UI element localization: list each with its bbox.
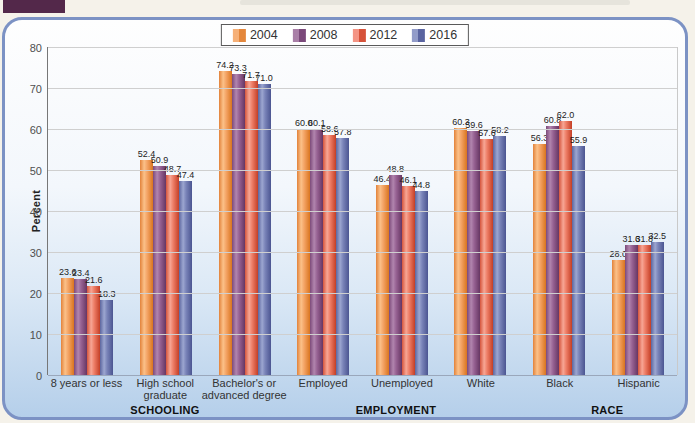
bar-2012: 62.0: [559, 121, 572, 375]
bar-2016: 58.2: [493, 136, 506, 375]
category-labels: 8 years or lessHigh schoolgraduateBachel…: [47, 377, 678, 403]
bar-2004: 28.0: [612, 260, 625, 375]
bar-2008: 60.8: [546, 126, 559, 375]
x-axis-line: [48, 375, 677, 376]
legend-label: 2004: [250, 28, 278, 42]
gridline-50: [48, 170, 677, 171]
bar-2012: 57.6: [480, 139, 493, 375]
bar-2016: 57.8: [336, 138, 349, 375]
bar-2016: 55.9: [572, 146, 585, 375]
y-tick-80: 80: [30, 42, 42, 54]
bar-2012: 21.6: [87, 286, 100, 375]
gridline-40: [48, 211, 677, 212]
bar-2012: 46.1: [402, 186, 415, 375]
gridline-80: [48, 47, 677, 48]
legend-swatch-2008: [293, 29, 306, 42]
bar-2008: 48.8: [389, 175, 402, 375]
y-tick-10: 10: [30, 329, 42, 341]
bar-2012: 31.8: [638, 245, 651, 375]
y-tick-70: 70: [30, 83, 42, 95]
bar-value-label: 44.8: [413, 180, 431, 190]
bar-2012: 71.7: [245, 81, 258, 375]
bar-2004: 56.3: [533, 144, 546, 375]
y-tick-60: 60: [30, 124, 42, 136]
legend-item-2004: 2004: [233, 28, 278, 42]
plot-area: Percent 23.623.421.618.352.450.948.747.4…: [47, 47, 678, 375]
category-label: Hispanic: [589, 377, 689, 389]
section-labels: SCHOOLINGEMPLOYMENTRACE: [47, 404, 678, 420]
legend-label: 2016: [429, 28, 457, 42]
gridline-70: [48, 88, 677, 89]
bar-2012: 48.7: [166, 175, 179, 375]
chart-card: 2004200820122016 Percent 23.623.421.618.…: [2, 17, 688, 420]
legend-label: 2008: [310, 28, 338, 42]
y-tick-20: 20: [30, 288, 42, 300]
legend-item-2012: 2012: [353, 28, 398, 42]
bar-2008: 73.3: [232, 74, 245, 375]
bar-value-label: 48.8: [387, 164, 405, 174]
cropped-page-text: [240, 0, 630, 5]
bar-2016: 32.5: [651, 242, 664, 375]
gridline-30: [48, 252, 677, 253]
legend-swatch-2012: [353, 29, 366, 42]
bar-2008: 31.6: [625, 245, 638, 375]
legend-swatch-2004: [233, 29, 246, 42]
bar-2008: 50.9: [153, 166, 166, 375]
legend-label: 2012: [370, 28, 398, 42]
gridline-10: [48, 334, 677, 335]
legend-swatch-2016: [412, 29, 425, 42]
y-tick-40: 40: [30, 206, 42, 218]
bar-value-label: 58.2: [491, 125, 509, 135]
gridline-60: [48, 129, 677, 130]
section-label-employment: EMPLOYMENT: [356, 404, 437, 416]
bar-2016: 71.0: [258, 84, 271, 375]
legend-item-2008: 2008: [293, 28, 338, 42]
bar-2004: 52.4: [140, 160, 153, 375]
section-label-race: RACE: [591, 404, 623, 416]
bar-2016: 44.8: [415, 191, 428, 375]
chart-legend: 2004200820122016: [221, 24, 469, 46]
legend-item-2016: 2016: [412, 28, 457, 42]
bar-value-label: 71.0: [255, 73, 273, 83]
bar-value-label: 55.9: [570, 135, 588, 145]
bar-value-label: 47.4: [177, 170, 195, 180]
bar-2016: 47.4: [179, 181, 192, 375]
y-tick-30: 30: [30, 247, 42, 259]
gridline-20: [48, 293, 677, 294]
bar-value-label: 32.5: [648, 231, 666, 241]
bar-2004: 46.4: [376, 185, 389, 375]
figure-number-tab: [3, 0, 65, 13]
bar-2016: 18.3: [100, 300, 113, 375]
bar-2004: 74.2: [219, 71, 232, 375]
bar-value-label: 62.0: [557, 110, 575, 120]
section-label-schooling: SCHOOLING: [130, 404, 199, 416]
bar-value-label: 21.6: [85, 275, 103, 285]
y-tick-50: 50: [30, 165, 42, 177]
